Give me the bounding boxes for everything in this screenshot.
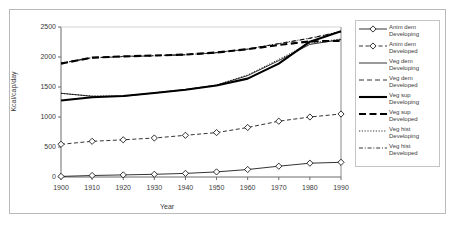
legend-line-sample — [358, 75, 388, 91]
series-marker-diamond — [213, 169, 219, 175]
legend-item[interactable]: Veg hist Developing — [358, 126, 437, 143]
y-tick-label: 0 — [22, 173, 56, 180]
x-tick-label: 1910 — [77, 184, 107, 191]
chart-canvas: 25002000150010005000 1900191019201930194… — [0, 0, 457, 225]
series-polyline — [61, 41, 341, 64]
y-axis-title: Kcal/cap/day — [10, 62, 17, 122]
legend-item[interactable]: Anim dem Developing — [358, 24, 437, 41]
legend-line-sample — [358, 143, 388, 159]
series-marker-diamond — [338, 159, 344, 165]
series-marker-diamond — [276, 118, 282, 124]
series-marker-diamond — [89, 172, 95, 178]
x-tick-label: 1990 — [326, 184, 356, 191]
series-marker-diamond — [182, 132, 188, 138]
legend-item[interactable]: Veg hist Developed — [358, 143, 437, 160]
legend-item-label: Veg sup Developed — [388, 109, 418, 123]
legend-item-label: Anim dem Developed — [388, 41, 418, 55]
legend-line-sample — [358, 24, 388, 40]
y-tick-label: 2000 — [22, 53, 56, 60]
y-tick-label: 500 — [22, 143, 56, 150]
series-polyline — [61, 39, 341, 96]
series-marker-diamond — [151, 135, 157, 141]
series-marker-diamond — [245, 124, 251, 130]
series-polyline — [61, 32, 341, 64]
series-line — [58, 111, 344, 147]
x-tick-label: 1920 — [108, 184, 138, 191]
x-tick-label: 1980 — [295, 184, 325, 191]
y-tick-label: 1500 — [22, 83, 56, 90]
series-marker-diamond — [307, 160, 313, 166]
legend-line-sample — [358, 126, 388, 142]
y-tick-label: 2500 — [22, 23, 56, 30]
x-tick-label: 1970 — [264, 184, 294, 191]
legend-item[interactable]: Veg dem Developed — [358, 75, 437, 92]
x-tick-label: 1950 — [202, 184, 232, 191]
legend-item[interactable]: Veg dem Developing — [358, 58, 437, 75]
series-marker-diamond — [307, 114, 313, 120]
series-line — [61, 39, 341, 96]
series-line — [61, 41, 341, 64]
series-marker-diamond — [58, 141, 64, 147]
series-marker-diamond — [120, 137, 126, 143]
series-marker-diamond — [338, 111, 344, 117]
x-tick-label: 1930 — [139, 184, 169, 191]
series-marker-diamond — [58, 173, 64, 179]
series-marker-diamond — [276, 163, 282, 169]
series-line — [61, 31, 341, 100]
series-polyline — [61, 31, 341, 100]
chart-legend[interactable]: Anim dem DevelopingAnim dem DevelopedVeg… — [355, 20, 440, 167]
legend-item[interactable]: Anim dem Developed — [358, 41, 437, 58]
legend-item[interactable]: Veg sup Developing — [358, 92, 437, 109]
series-line — [58, 159, 344, 179]
legend-item-label: Veg dem Developed — [388, 75, 418, 89]
series-marker-diamond — [245, 166, 251, 172]
legend-line-sample — [358, 109, 388, 125]
series-line — [61, 32, 341, 64]
y-tick-label: 1000 — [22, 113, 56, 120]
series-marker-diamond — [213, 130, 219, 136]
series-marker-diamond — [182, 170, 188, 176]
series-polyline — [61, 114, 341, 144]
legend-item-label: Veg sup Developing — [388, 92, 419, 106]
legend-item-label: Anim dem Developing — [388, 24, 419, 38]
legend-line-sample — [358, 58, 388, 74]
x-axis-title: Year — [160, 203, 174, 210]
legend-line-sample — [358, 92, 388, 108]
x-tick-label: 1960 — [233, 184, 263, 191]
x-tick-label: 1940 — [170, 184, 200, 191]
series-line — [61, 32, 341, 64]
series-marker-diamond — [89, 138, 95, 144]
legend-item-label: Veg hist Developing — [388, 126, 419, 140]
data-series-group — [58, 31, 344, 179]
series-polyline — [61, 32, 341, 64]
legend-item-label: Veg dem Developing — [388, 58, 419, 72]
legend-item-label: Veg hist Developed — [388, 143, 418, 157]
legend-item[interactable]: Veg sup Developed — [358, 109, 437, 126]
series-marker-diamond — [151, 171, 157, 177]
series-polyline — [61, 162, 341, 176]
legend-line-sample — [358, 41, 388, 57]
x-tick-label: 1900 — [46, 184, 76, 191]
